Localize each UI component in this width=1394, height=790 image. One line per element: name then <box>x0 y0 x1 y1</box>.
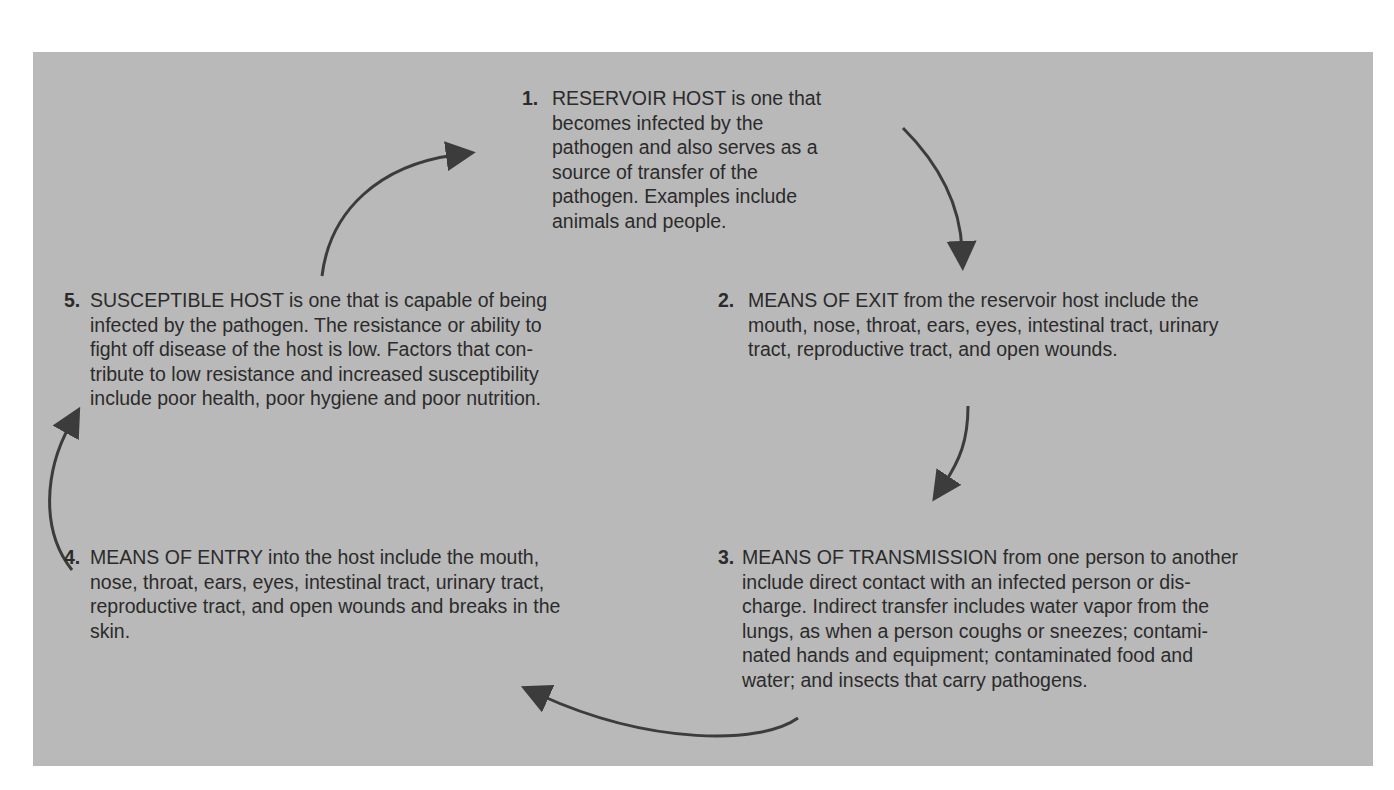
step-text-line: tract, reproductive tract, and open woun… <box>748 337 1218 362</box>
step-number: 3. <box>718 545 734 570</box>
step-text-line: mouth, nose, throat, ears, eyes, intesti… <box>748 313 1218 338</box>
step-text-line: RESERVOIR HOST is one that <box>552 86 821 111</box>
step-number: 1. <box>522 86 538 111</box>
step-text-line: reproductive tract, and open wounds and … <box>90 594 560 619</box>
step-text-line: animals and people. <box>552 209 821 234</box>
step-number: 4. <box>64 545 80 570</box>
step-text-line: lungs, as when a person coughs or sneeze… <box>742 619 1238 644</box>
step-text-line: tribute to low resistance and increased … <box>90 362 547 387</box>
step-text-line: source of transfer of the <box>552 160 821 185</box>
step-text-line: pathogen and also serves as a <box>552 135 821 160</box>
step-text-line: becomes infected by the <box>552 111 821 136</box>
step-text-line: water; and insects that carry pathogens. <box>742 668 1238 693</box>
step-text-line: infected by the pathogen. The resistance… <box>90 313 547 338</box>
step-text-line: charge. Indirect transfer includes water… <box>742 594 1238 619</box>
step-text-line: fight off disease of the host is low. Fa… <box>90 337 547 362</box>
step-number: 2. <box>718 288 734 313</box>
step-text-line: SUSCEPTIBLE HOST is one that is capable … <box>90 288 547 313</box>
step-text-line: skin. <box>90 619 560 644</box>
step-text-line: nated hands and equipment; contaminated … <box>742 643 1238 668</box>
step-text-line: MEANS OF ENTRY into the host include the… <box>90 545 560 570</box>
step-text-line: MEANS OF EXIT from the reservoir host in… <box>748 288 1218 313</box>
step-text-line: nose, throat, ears, eyes, intestinal tra… <box>90 570 560 595</box>
step-number: 5. <box>64 288 80 313</box>
step-text-line: pathogen. Examples include <box>552 184 821 209</box>
step-text-line: MEANS OF TRANSMISSION from one person to… <box>742 545 1238 570</box>
step-text-line: include poor health, poor hygiene and po… <box>90 386 547 411</box>
step-text-line: include direct contact with an infected … <box>742 570 1238 595</box>
